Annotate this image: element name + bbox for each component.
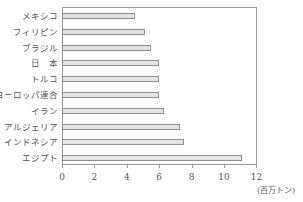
horizontal-bar-chart: メキシコフィリピンブラジル日 本トルコヨーロッパ連合イランアルジェリアインドネシ… bbox=[0, 0, 303, 202]
x-tick-mark bbox=[159, 165, 160, 168]
category-label: メキシコ bbox=[22, 11, 58, 21]
category-label: トルコ bbox=[31, 74, 58, 84]
x-tick-mark bbox=[192, 165, 193, 168]
category-label: イラン bbox=[31, 106, 58, 116]
category-label: エジプト bbox=[22, 153, 58, 163]
bar bbox=[62, 60, 159, 66]
category-label: フィリピン bbox=[13, 27, 58, 37]
bar bbox=[62, 139, 184, 145]
category-label: アルジェリア bbox=[4, 122, 58, 132]
x-axis-unit-label: (百万トン) bbox=[257, 184, 295, 195]
x-tick-label: 10 bbox=[218, 172, 229, 182]
x-tick-label: 12 bbox=[251, 172, 262, 182]
bar bbox=[62, 92, 159, 98]
x-tick-mark bbox=[127, 165, 128, 168]
x-tick-label: 0 bbox=[59, 172, 65, 182]
bar bbox=[62, 124, 180, 130]
bar bbox=[62, 108, 164, 114]
bar bbox=[62, 29, 145, 35]
bar bbox=[62, 45, 151, 51]
x-tick-mark bbox=[224, 165, 225, 168]
x-tick-mark bbox=[256, 165, 257, 168]
category-label: ブラジル bbox=[22, 43, 58, 53]
x-tick-label: 4 bbox=[124, 172, 130, 182]
category-label: インドネシア bbox=[4, 137, 58, 147]
bar bbox=[62, 155, 242, 161]
bar bbox=[62, 13, 135, 19]
x-tick-mark bbox=[94, 165, 95, 168]
category-label: ヨーロッパ連合 bbox=[0, 90, 58, 100]
bar bbox=[62, 76, 159, 82]
x-tick-label: 8 bbox=[189, 172, 195, 182]
x-tick-mark bbox=[62, 165, 63, 168]
x-tick-label: 2 bbox=[92, 172, 98, 182]
category-label: 日 本 bbox=[31, 58, 58, 68]
x-tick-label: 6 bbox=[156, 172, 162, 182]
